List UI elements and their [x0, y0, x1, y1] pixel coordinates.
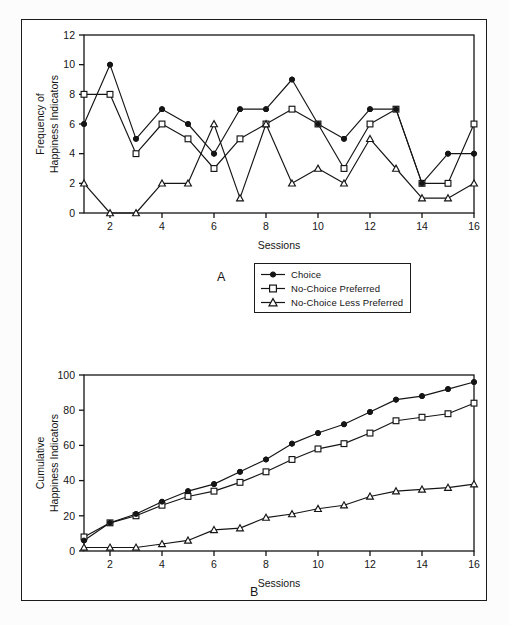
x-tick-label: 16 — [468, 220, 480, 232]
legend-item-choice: Choice — [260, 267, 403, 281]
data-point — [289, 106, 295, 112]
panel-a: 024681012246810121416SessionsFrequency o… — [22, 20, 488, 285]
data-point — [238, 469, 243, 474]
y-tick-label: 100 — [57, 369, 75, 381]
data-point — [82, 538, 87, 543]
data-point — [341, 441, 347, 447]
y-axis-label-line2: Happiness Indicators — [48, 414, 60, 512]
data-point — [446, 387, 451, 392]
y-tick-label: 20 — [63, 510, 75, 522]
data-point — [263, 469, 269, 475]
data-point — [212, 482, 217, 487]
data-point — [185, 136, 191, 142]
y-tick-label: 0 — [69, 207, 75, 219]
panel-a-letter: A — [217, 270, 225, 284]
data-point — [160, 107, 165, 112]
plot-frame — [84, 35, 474, 213]
data-point — [420, 394, 425, 399]
data-point — [237, 195, 244, 201]
panel-a-plot: 024681012246810121416SessionsFrequency o… — [22, 20, 488, 285]
x-tick-label: 4 — [159, 558, 165, 570]
data-point — [264, 107, 269, 112]
x-axis-label: Sessions — [258, 239, 301, 251]
x-tick-label: 6 — [211, 558, 217, 570]
data-point — [289, 180, 296, 186]
data-point — [393, 418, 399, 424]
y-tick-label: 6 — [69, 118, 75, 130]
y-axis-label-line1: Frequency of — [34, 93, 46, 154]
legend-item-no-choice-less-preferred: No-Choice Less Preferred — [260, 295, 403, 309]
legend-marker-open-square-icon — [260, 283, 286, 294]
data-point — [212, 151, 217, 156]
data-point — [237, 136, 243, 142]
legend-label-choice: Choice — [291, 269, 321, 280]
data-point — [134, 512, 139, 517]
data-point — [419, 414, 425, 420]
series-line-2 — [84, 124, 474, 213]
y-tick-label: 10 — [63, 58, 75, 70]
x-tick-label: 2 — [107, 220, 113, 232]
data-point — [394, 107, 399, 112]
data-point — [108, 520, 113, 525]
data-point — [368, 107, 373, 112]
x-tick-label: 14 — [416, 220, 428, 232]
data-point — [81, 91, 87, 97]
data-point — [289, 457, 295, 463]
data-point — [108, 62, 113, 67]
data-point — [315, 446, 321, 452]
legend-label-no-choice-less-preferred: No-Choice Less Preferred — [291, 297, 403, 308]
series-line-1 — [84, 403, 474, 537]
data-point — [394, 397, 399, 402]
x-tick-label: 10 — [312, 220, 324, 232]
figure-frame: 024681012246810121416SessionsFrequency o… — [21, 19, 487, 601]
data-point — [290, 77, 295, 82]
data-point — [133, 151, 139, 157]
data-point — [420, 181, 425, 186]
data-point — [134, 136, 139, 141]
data-point — [160, 499, 165, 504]
series-line-0 — [84, 382, 474, 540]
data-point — [186, 122, 191, 127]
data-point — [471, 481, 478, 487]
x-tick-label: 8 — [263, 558, 269, 570]
data-point — [367, 430, 373, 436]
data-point — [237, 479, 243, 485]
y-tick-label: 8 — [69, 88, 75, 100]
panel-b-letter: B — [250, 585, 258, 599]
x-tick-label: 2 — [107, 558, 113, 570]
data-point — [445, 411, 451, 417]
legend: Choice No-Choice Preferred No-Choice Les… — [254, 263, 411, 313]
x-axis-label: Sessions — [258, 577, 301, 589]
data-point — [290, 441, 295, 446]
y-tick-label: 60 — [63, 439, 75, 451]
panel-b-plot: 020406080100246810121416SessionsCumulati… — [22, 330, 488, 602]
data-point — [211, 121, 218, 127]
series-line-1 — [84, 94, 474, 183]
data-point — [82, 122, 87, 127]
x-tick-label: 12 — [364, 220, 376, 232]
data-point — [211, 166, 217, 172]
data-point — [367, 121, 373, 127]
data-point — [315, 165, 322, 171]
data-point — [367, 135, 374, 141]
data-point — [471, 121, 477, 127]
y-tick-label: 80 — [63, 404, 75, 416]
data-point — [185, 494, 191, 500]
data-point — [211, 488, 217, 494]
legend-marker-filled-circle-icon — [260, 269, 286, 280]
data-point — [316, 122, 321, 127]
data-point — [341, 180, 348, 186]
plot-frame — [84, 375, 474, 551]
legend-label-no-choice-preferred: No-Choice Preferred — [291, 283, 380, 294]
x-tick-label: 10 — [312, 558, 324, 570]
data-point — [159, 121, 165, 127]
data-point — [341, 166, 347, 172]
y-axis-label-line2: Happiness Indicators — [48, 75, 60, 173]
y-tick-label: 2 — [69, 177, 75, 189]
x-tick-label: 14 — [416, 558, 428, 570]
y-tick-label: 0 — [69, 545, 75, 557]
data-point — [316, 431, 321, 436]
data-point — [107, 91, 113, 97]
data-point — [342, 136, 347, 141]
data-point — [368, 409, 373, 414]
